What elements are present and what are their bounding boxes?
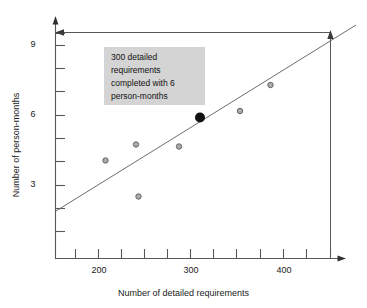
y-tick-label-6: 6: [26, 109, 40, 119]
x-tick-label-200: 200: [84, 265, 114, 275]
y-axis-ticks: [56, 34, 65, 232]
data-point: [136, 194, 141, 199]
annotation-line-1: 300 detailed: [111, 51, 199, 64]
x-tick-label-400: 400: [269, 265, 299, 275]
annotation-callout: 300 detailed requirements completed with…: [104, 47, 205, 105]
horizontal-projection-arrow: [55, 29, 331, 35]
data-point: [133, 142, 138, 147]
x-tick-label-300: 300: [176, 265, 206, 275]
vertical-projection-arrow: [327, 30, 333, 258]
data-point: [176, 144, 181, 149]
data-point: [237, 108, 242, 113]
data-point: [268, 82, 273, 87]
annotation-line-2: requirements: [111, 64, 199, 77]
y-axis: [53, 16, 59, 259]
data-point: [103, 158, 108, 163]
highlighted-data-point: [195, 113, 205, 123]
y-tick-label-9: 9: [26, 39, 40, 49]
chart-figure: 300 detailed requirements completed with…: [0, 0, 367, 308]
trend-line: [56, 25, 356, 211]
x-axis-ticks: [76, 249, 331, 258]
x-axis-title: Number of detailed requirements: [0, 288, 367, 298]
y-tick-label-3: 3: [26, 179, 40, 189]
annotation-line-3: completed with 6: [111, 77, 199, 90]
y-axis-title: Number of person-months: [11, 45, 21, 245]
annotation-line-4: person-months: [111, 90, 199, 103]
